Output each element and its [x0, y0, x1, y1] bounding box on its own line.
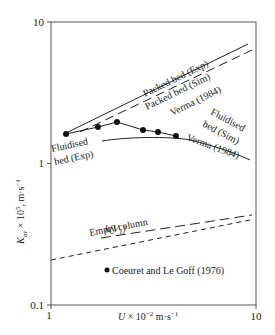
- plot-frame: [51, 22, 256, 305]
- marker-fluidised-exp: [155, 129, 161, 135]
- y-tick-label-01: 0.1: [30, 299, 44, 311]
- x-tick-label-1: 1: [46, 309, 52, 321]
- y-axis-unit-exponent: −1: [14, 179, 22, 187]
- y-tick-label-10: 10: [33, 16, 45, 28]
- marker-fluidised-exp: [63, 131, 69, 137]
- y-axis-factor: × 10: [15, 210, 26, 231]
- marker-fluidised-exp: [95, 124, 101, 130]
- annotation-coeuret: Coeuret and Le Goff (1976): [112, 265, 224, 277]
- line-empty-column: [51, 220, 250, 260]
- marker-fluidised-exp: [173, 133, 179, 139]
- x-axis-unit-exponent: −1: [171, 310, 179, 318]
- y-axis-unit: , m·s: [15, 186, 26, 206]
- marker-coeuret: [105, 268, 110, 273]
- x-axis-label: U × 10−2 m·s−1: [118, 310, 179, 322]
- y-tick-label-1: 1: [39, 157, 45, 169]
- marker-fluidised-exp: [140, 127, 146, 133]
- marker-fluidised-exp: [114, 119, 120, 125]
- x-axis-unit: m·s: [153, 311, 171, 322]
- x-axis-factor: × 10: [125, 311, 146, 322]
- x-tick-label-10: 10: [251, 310, 263, 322]
- y-axis-label: Kav × 105, m·s−1: [14, 179, 29, 245]
- chart: 10 1 0.1 1 10 U × 10−2 m·s−1 Kav × 105, …: [0, 0, 275, 335]
